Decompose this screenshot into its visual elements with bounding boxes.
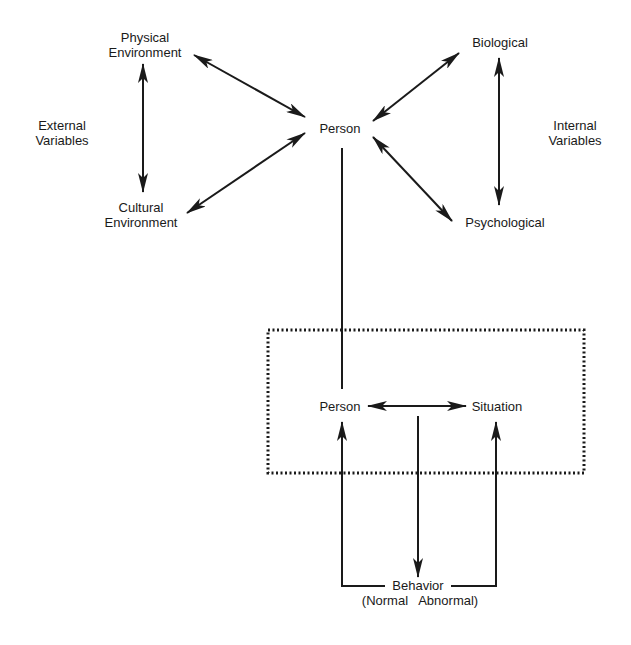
- label-behavior-sub: (Normal Abnormal): [340, 593, 500, 608]
- label-biological: Biological: [460, 35, 540, 50]
- physical-line1: Physical: [100, 30, 190, 45]
- arrow-cultural-person: [187, 133, 305, 213]
- arrow-behavior-to-situation: [451, 422, 496, 586]
- label-psychological: Psychological: [455, 215, 555, 230]
- arrow-physical-person: [194, 55, 305, 117]
- arrow-biological-person: [373, 53, 459, 121]
- label-internal-variables: Internal Variables: [535, 118, 615, 148]
- internal-line1: Internal: [535, 118, 615, 133]
- label-person-top: Person: [310, 121, 370, 136]
- label-cultural-environment: Cultural Environment: [96, 200, 186, 230]
- label-physical-environment: Physical Environment: [100, 30, 190, 60]
- arrow-psychological-person: [373, 137, 452, 221]
- label-external-variables: External Variables: [22, 118, 102, 148]
- label-person-box: Person: [310, 399, 370, 414]
- internal-line2: Variables: [535, 133, 615, 148]
- external-line1: External: [22, 118, 102, 133]
- arrow-behavior-to-person: [342, 422, 385, 586]
- label-situation: Situation: [462, 399, 532, 414]
- external-line2: Variables: [22, 133, 102, 148]
- label-behavior: Behavior: [380, 578, 456, 593]
- cultural-line1: Cultural: [96, 200, 186, 215]
- diagram-canvas: [0, 0, 631, 645]
- physical-line2: Environment: [100, 45, 190, 60]
- cultural-line2: Environment: [96, 215, 186, 230]
